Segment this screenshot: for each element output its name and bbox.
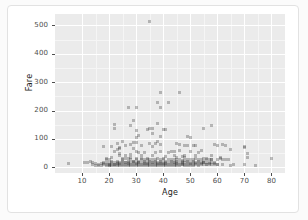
data-point xyxy=(178,91,181,94)
y-tick-mark xyxy=(52,82,55,83)
data-point xyxy=(186,144,189,147)
data-point xyxy=(194,144,197,147)
gridline-major-horizontal xyxy=(55,139,285,140)
data-point xyxy=(227,158,230,161)
data-point xyxy=(186,160,189,163)
data-point xyxy=(173,150,176,153)
y-tick-label: 400 xyxy=(0,50,48,57)
x-tick-label: 30 xyxy=(124,178,148,185)
x-axis-title: Age xyxy=(55,188,285,197)
gridline-minor-vertical xyxy=(123,14,124,173)
data-point xyxy=(113,127,116,130)
data-point xyxy=(183,154,186,157)
y-tick-mark xyxy=(52,54,55,55)
data-point xyxy=(192,160,195,163)
data-point xyxy=(148,20,151,23)
data-point xyxy=(159,106,162,109)
data-point xyxy=(210,124,213,127)
gridline-minor-vertical xyxy=(204,14,205,173)
data-point xyxy=(210,154,213,157)
data-point xyxy=(232,163,235,166)
data-point xyxy=(159,135,162,138)
data-point xyxy=(254,164,257,167)
gridline-major-vertical xyxy=(244,14,245,173)
data-point xyxy=(135,141,138,144)
data-point xyxy=(216,163,219,166)
data-point xyxy=(202,127,205,130)
gridline-major-horizontal xyxy=(55,111,285,112)
data-point xyxy=(135,106,138,109)
gridline-major-vertical xyxy=(190,14,191,173)
x-tick-label: 10 xyxy=(70,178,94,185)
y-tick-label: 0 xyxy=(0,164,48,171)
x-tick-label: 20 xyxy=(97,178,121,185)
y-tick-label: 500 xyxy=(0,22,48,29)
gridline-minor-vertical xyxy=(96,14,97,173)
data-point xyxy=(243,163,246,166)
x-tick-label: 70 xyxy=(232,178,256,185)
gridline-major-vertical xyxy=(163,14,164,173)
data-point xyxy=(127,106,130,109)
data-point xyxy=(167,101,170,104)
x-tick-mark xyxy=(136,173,137,176)
data-point xyxy=(159,91,162,94)
data-point xyxy=(189,150,192,153)
gridline-major-horizontal xyxy=(55,54,285,55)
data-point xyxy=(246,156,249,159)
data-point xyxy=(229,148,232,151)
data-point xyxy=(224,144,227,147)
data-point xyxy=(159,143,162,146)
x-tick-label: 50 xyxy=(178,178,202,185)
y-tick-label: 100 xyxy=(0,135,48,142)
y-tick-label: 300 xyxy=(0,79,48,86)
data-point xyxy=(246,152,249,155)
x-tick-mark xyxy=(244,173,245,176)
y-axis-title: Fare xyxy=(25,74,34,92)
data-point xyxy=(132,119,135,122)
x-tick-mark xyxy=(163,173,164,176)
data-point xyxy=(194,154,197,157)
data-point xyxy=(156,101,159,104)
data-point xyxy=(164,128,167,131)
data-point xyxy=(135,129,138,132)
data-point xyxy=(124,144,127,147)
data-point xyxy=(124,154,127,157)
data-point xyxy=(121,160,124,163)
data-point xyxy=(213,161,216,164)
data-point xyxy=(118,146,121,149)
gridline-minor-horizontal xyxy=(55,96,285,97)
gridline-minor-vertical xyxy=(150,14,151,173)
gridline-major-horizontal xyxy=(55,25,285,26)
data-point xyxy=(137,134,140,137)
data-point xyxy=(137,160,140,163)
data-point xyxy=(159,150,162,153)
data-point xyxy=(210,158,213,161)
data-point xyxy=(270,157,273,160)
data-point xyxy=(116,160,119,163)
data-point xyxy=(127,160,130,163)
data-point xyxy=(164,155,167,158)
data-point xyxy=(118,154,121,157)
plot-panel xyxy=(55,14,285,173)
data-point xyxy=(129,124,132,127)
data-point xyxy=(154,160,157,163)
x-tick-mark xyxy=(82,173,83,176)
gridline-major-horizontal xyxy=(55,82,285,83)
gridline-minor-horizontal xyxy=(55,125,285,126)
data-point xyxy=(178,149,181,152)
x-tick-mark xyxy=(217,173,218,176)
x-tick-label: 80 xyxy=(259,178,283,185)
x-tick-mark xyxy=(109,173,110,176)
data-point xyxy=(140,144,143,147)
data-point xyxy=(148,160,151,163)
gridline-minor-vertical xyxy=(258,14,259,173)
data-point xyxy=(140,154,143,157)
data-point xyxy=(221,163,224,166)
data-point xyxy=(159,160,162,163)
y-tick-label: 200 xyxy=(0,107,48,114)
data-point xyxy=(175,160,178,163)
gridline-major-vertical xyxy=(82,14,83,173)
x-tick-mark xyxy=(190,173,191,176)
data-point xyxy=(116,142,119,145)
data-point xyxy=(121,140,124,143)
